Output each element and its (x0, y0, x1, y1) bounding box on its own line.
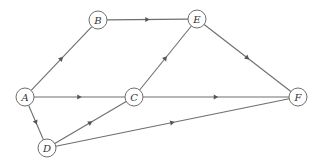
arrowhead-icon (244, 55, 249, 60)
edge-a-b (31, 27, 92, 91)
node-c: C (125, 88, 143, 106)
node-label: B (93, 15, 101, 26)
edge-d-c (55, 102, 126, 144)
node-label: F (294, 92, 303, 103)
node-a: A (16, 88, 34, 106)
edge-c-e (140, 26, 192, 90)
arrowhead-icon (145, 17, 150, 22)
arrowhead-icon (214, 94, 219, 99)
edge-c-f (143, 94, 289, 99)
node-label: D (42, 143, 51, 154)
edges (29, 17, 291, 146)
node-d: D (38, 139, 56, 157)
edge-a-d (29, 105, 44, 139)
node-label: C (130, 92, 138, 103)
node-label: E (192, 14, 201, 25)
arrowhead-icon (170, 120, 175, 125)
edge-b-e (107, 17, 188, 22)
node-label: A (20, 92, 28, 103)
edge-e-f (204, 25, 291, 92)
node-f: F (289, 88, 307, 106)
nodes: ABECDF (16, 10, 307, 157)
edge-a-c (34, 94, 125, 99)
node-e: E (188, 10, 206, 28)
directed-graph: ABECDF (0, 0, 322, 168)
arrowhead-icon (77, 94, 82, 99)
node-b: B (89, 11, 107, 29)
